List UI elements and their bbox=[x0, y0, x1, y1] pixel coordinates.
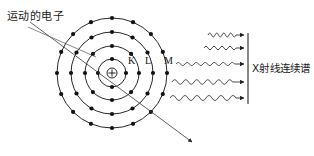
electron-dot bbox=[131, 20, 135, 24]
electron-dot bbox=[110, 16, 114, 20]
electron-dot bbox=[71, 32, 75, 36]
electron-dot bbox=[91, 90, 95, 94]
nucleus bbox=[107, 68, 117, 78]
electron-dot bbox=[59, 92, 63, 96]
xray-wave bbox=[176, 62, 235, 65]
electron-dot bbox=[55, 71, 59, 75]
xray-wave bbox=[208, 33, 236, 37]
electron-dot bbox=[124, 71, 128, 75]
electron-dot bbox=[145, 91, 149, 95]
electron-dot bbox=[89, 106, 93, 110]
electron-dot bbox=[131, 122, 135, 126]
electron-dot bbox=[110, 44, 114, 48]
electron-dot bbox=[110, 126, 114, 130]
electron-dot bbox=[89, 20, 93, 24]
electron-dot bbox=[74, 50, 78, 54]
electron-dot bbox=[149, 32, 153, 36]
electron-dot bbox=[165, 71, 169, 75]
electron-dot bbox=[161, 50, 165, 54]
shell-label-k: K bbox=[128, 56, 135, 66]
xray-spectrum-label: X射线连续谱 bbox=[252, 63, 310, 74]
electron-dot bbox=[74, 91, 78, 95]
electron-dot bbox=[137, 71, 141, 75]
electron-dot bbox=[59, 50, 63, 54]
electron-dot bbox=[89, 35, 93, 39]
electron-dot bbox=[89, 122, 93, 126]
xray-wave bbox=[170, 95, 236, 100]
electron-dot bbox=[130, 35, 134, 39]
xray-wave bbox=[204, 46, 236, 49]
electron-dot bbox=[110, 57, 114, 61]
shell-label-l: L bbox=[145, 56, 151, 66]
electron-dot bbox=[161, 92, 165, 96]
electron-dot bbox=[110, 112, 114, 116]
electron-dot bbox=[69, 71, 73, 75]
electron-dot bbox=[130, 106, 134, 110]
electron-dot bbox=[110, 98, 114, 102]
electron-dot bbox=[110, 85, 114, 89]
electron-dot bbox=[71, 110, 75, 114]
electron-dot bbox=[129, 90, 133, 94]
electron-dot bbox=[83, 71, 87, 75]
xray-wavy-rays bbox=[170, 33, 244, 101]
electron-dot bbox=[145, 50, 149, 54]
incoming-electron-trajectory bbox=[30, 22, 192, 142]
shell-label-m: M bbox=[164, 56, 173, 66]
diagram-canvas: 运动的电子 X射线连续谱 K L M bbox=[0, 0, 314, 156]
electron-dot bbox=[110, 30, 114, 34]
xray-wave bbox=[172, 80, 233, 85]
electron-dot bbox=[151, 71, 155, 75]
atom-xray-illustration bbox=[0, 0, 314, 156]
incoming-electron-label: 运动的电子 bbox=[7, 11, 64, 22]
